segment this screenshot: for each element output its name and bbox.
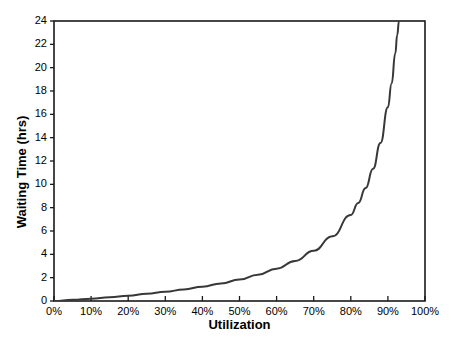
plot-area [0, 0, 451, 343]
waiting-time-chart: Waiting Time (hrs) Utilization 024681012… [0, 0, 451, 343]
plot-background [54, 21, 425, 301]
